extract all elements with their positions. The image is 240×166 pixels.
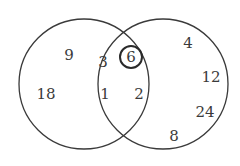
- left-circle: [19, 19, 149, 149]
- intersection-number-3: 3: [98, 53, 108, 71]
- right-number-12: 12: [201, 68, 220, 86]
- intersection-number-2: 2: [134, 85, 144, 103]
- intersection-number-6: 6: [126, 48, 136, 66]
- intersection-number-1: 1: [100, 85, 110, 103]
- left-number-18: 18: [36, 85, 55, 103]
- left-number-9: 9: [64, 46, 74, 64]
- right-number-8: 8: [169, 127, 179, 145]
- right-number-24: 24: [195, 103, 214, 121]
- venn-diagram: 9 18 3 6 1 2 4 12 24 8: [0, 0, 240, 166]
- right-number-4: 4: [183, 34, 193, 52]
